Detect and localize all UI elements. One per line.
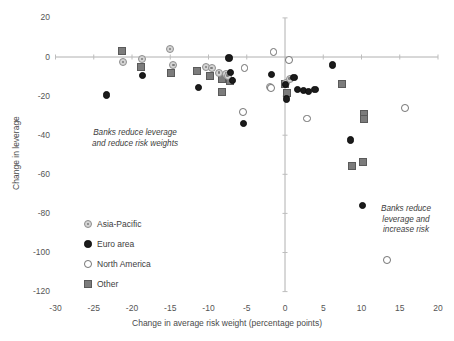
- annotation-banks-reduce-leverage-and-increase-risk: Banks reduce leverage and increase risk: [363, 204, 449, 236]
- legend-item-label: Euro area: [97, 234, 134, 254]
- annotation-banks-reduce-leverage-and-reduce-risk-weights: Banks reduce leverage and reduce risk we…: [68, 128, 202, 149]
- data-point: [348, 162, 356, 170]
- axis-lines: [0, 0, 454, 341]
- data-point: [383, 256, 391, 264]
- data-point: [401, 104, 409, 112]
- data-point: [338, 80, 346, 88]
- chart-legend: Asia-PacificEuro areaNorth AmericaOther: [84, 214, 204, 294]
- legend-marker-icon: [84, 240, 91, 247]
- data-point: [359, 158, 367, 166]
- legend-item-label: North America: [97, 254, 151, 274]
- data-point: [229, 77, 236, 84]
- legend-item-label: Other: [97, 274, 118, 294]
- data-point: [290, 74, 297, 81]
- data-point: [137, 63, 145, 71]
- legend-item-label: Asia-Pacific: [97, 214, 141, 234]
- data-point: [329, 61, 336, 68]
- data-point: [206, 72, 214, 80]
- data-point: [167, 69, 175, 77]
- data-point: [138, 55, 146, 63]
- data-point: [118, 47, 126, 55]
- scatter-chart: 200-20-40-60-80-100-120 -30-25-20-15-10-…: [0, 0, 454, 341]
- data-point: [193, 67, 201, 75]
- data-point: [311, 86, 318, 93]
- legend-item-other[interactable]: Other: [84, 274, 204, 294]
- legend-marker-icon: [84, 260, 92, 268]
- data-point: [218, 88, 226, 96]
- legend-item-euro-area[interactable]: Euro area: [84, 234, 204, 254]
- data-point: [241, 64, 249, 72]
- plot-area: [0, 0, 454, 341]
- data-point: [360, 115, 368, 123]
- legend-marker-icon: [84, 220, 92, 228]
- data-point: [239, 108, 247, 116]
- legend-item-north-america[interactable]: North America: [84, 254, 204, 274]
- legend-marker-icon: [84, 280, 92, 288]
- data-point: [285, 56, 293, 64]
- legend-item-asia-pacific[interactable]: Asia-Pacific: [84, 214, 204, 234]
- data-point: [119, 58, 127, 66]
- data-point: [283, 95, 290, 102]
- data-point: [225, 54, 232, 61]
